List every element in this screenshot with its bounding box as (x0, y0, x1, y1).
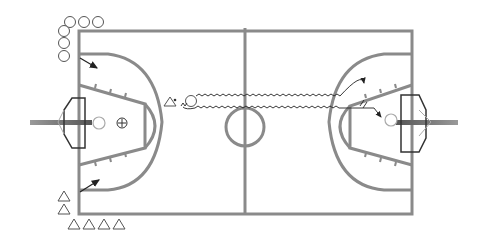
offense-player-circle (59, 26, 70, 37)
basket-post-left (30, 120, 92, 125)
coach-circle (186, 96, 197, 107)
basket-post-right (396, 120, 458, 125)
defense-players (58, 191, 125, 229)
basketball-court-diagram (0, 0, 484, 245)
basket-left (30, 98, 105, 148)
defense-player-triangle (98, 219, 110, 229)
hoop-left (93, 117, 105, 129)
ball-handler-triangle (164, 97, 176, 106)
offense-player-circle (79, 17, 90, 28)
ball-handler (164, 96, 197, 107)
hoop-right (385, 114, 397, 126)
basket-right (385, 95, 458, 152)
offense-player-circle (59, 38, 70, 49)
offense-player-circle (59, 51, 70, 62)
ball-dot (174, 99, 177, 102)
plus-marker (117, 118, 127, 128)
defense-player-triangle (58, 204, 70, 214)
defense-player-triangle (68, 219, 80, 229)
offense-player-circle (93, 17, 104, 28)
defense-player-triangle (113, 219, 125, 229)
court-lines (79, 28, 412, 214)
defense-player-triangle (58, 191, 70, 201)
cut-arrow-top-left (80, 58, 97, 68)
defense-player-triangle (83, 219, 95, 229)
